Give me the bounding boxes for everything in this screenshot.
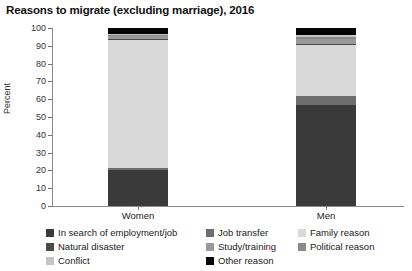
bar-segment xyxy=(296,45,356,96)
legend-swatch xyxy=(46,257,54,265)
legend-label: In search of employment/job xyxy=(58,228,177,238)
bar-stack-women xyxy=(108,28,168,206)
legend-swatch xyxy=(46,243,54,251)
bar-stack-men xyxy=(296,28,356,206)
bar-segment xyxy=(296,28,356,35)
legend-item[interactable]: In search of employment/job xyxy=(46,226,206,240)
legend-swatch xyxy=(206,257,214,265)
x-axis-line xyxy=(52,206,404,207)
bar-men[interactable] xyxy=(0,28,60,206)
legend-swatch xyxy=(298,243,306,251)
legend-label: Political reason xyxy=(310,242,374,252)
legend-label: Job transfer xyxy=(218,228,268,238)
legend-label: Study/training xyxy=(218,242,276,252)
legend-swatch xyxy=(206,243,214,251)
legend: In search of employment/jobJob transferF… xyxy=(46,226,412,270)
legend-item[interactable]: Conflict xyxy=(46,254,206,268)
legend-label: Natural disaster xyxy=(58,242,125,252)
bar-segment xyxy=(108,170,168,206)
legend-item[interactable]: Political reason xyxy=(298,240,412,254)
legend-label: Other reason xyxy=(218,256,273,266)
legend-label: Conflict xyxy=(58,256,90,266)
bar-segment xyxy=(296,105,356,206)
plot-area: Percent 0102030405060708090100 Women Men xyxy=(0,22,412,212)
x-axis-label-men: Men xyxy=(266,210,386,221)
legend-swatch xyxy=(46,229,54,237)
page-title: Reasons to migrate (excluding marriage),… xyxy=(6,4,254,16)
legend-swatch xyxy=(206,229,214,237)
legend-item[interactable]: Natural disaster xyxy=(46,240,206,254)
legend-item[interactable]: Job transfer xyxy=(206,226,298,240)
legend-item[interactable]: Other reason xyxy=(206,254,298,268)
legend-swatch xyxy=(298,229,306,237)
bar-segment xyxy=(296,96,356,105)
legend-item[interactable]: Study/training xyxy=(206,240,298,254)
x-axis-label-women: Women xyxy=(78,210,198,221)
bar-segment xyxy=(108,40,168,168)
legend-item[interactable]: Family reason xyxy=(298,226,412,240)
legend-label: Family reason xyxy=(310,228,370,238)
